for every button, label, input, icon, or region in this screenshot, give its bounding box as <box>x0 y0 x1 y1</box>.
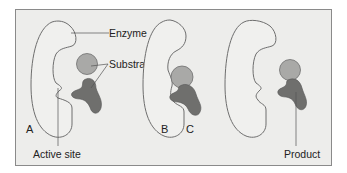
label-enzyme: Enzyme <box>109 27 147 39</box>
enzyme-diagram: A Enzyme Substrates Active site B C Prod… <box>0 0 347 173</box>
panel-label-b: B <box>161 123 168 135</box>
panel-label-c: C <box>186 123 194 135</box>
product-light-c <box>280 60 301 81</box>
label-active-site: Active site <box>33 148 81 160</box>
substrate-light-a <box>77 54 98 75</box>
label-product: Product <box>284 148 320 160</box>
panel-label-a: A <box>26 123 34 135</box>
